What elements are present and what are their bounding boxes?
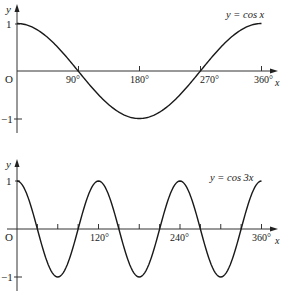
y-max-label: 1: [6, 175, 12, 187]
curve-label: y = cos 3x: [209, 172, 254, 183]
y-min-label: −1: [1, 113, 13, 125]
y-axis-arrow-icon: [15, 159, 20, 167]
x-ticks: [37, 224, 261, 229]
curve-label: y = cos x: [225, 9, 265, 20]
origin-label: O: [5, 231, 13, 243]
y-axis-arrow-icon: [15, 4, 20, 12]
x-axis-label: x: [274, 77, 280, 88]
x-tick-label-360: 360°: [252, 232, 271, 243]
y-axis-label: y: [5, 158, 11, 170]
x-tick-label-180: 180°: [130, 74, 149, 85]
x-tick-label-90: 90°: [66, 74, 80, 85]
chart-canvas: y 1 −1 O 90° 180° 270° 360° x y = cos x: [0, 0, 284, 298]
x-axis-label: x: [274, 235, 280, 246]
y-max-label: 1: [6, 18, 12, 30]
x-tick-label-120: 120°: [90, 232, 109, 243]
chart-cos-3x: y 1 −1 O 120° 240° 360° x y = cos 3x: [1, 158, 280, 291]
x-axis-arrow-icon: [270, 227, 278, 232]
chart-cos-x: y 1 −1 O 90° 180° 270° 360° x y = cos x: [1, 3, 280, 133]
figure: y 1 −1 O 90° 180° 270° 360° x y = cos x: [0, 0, 284, 298]
x-tick-label-360: 360°: [254, 74, 273, 85]
x-axis-arrow-icon: [270, 69, 278, 74]
x-tick-label-270: 270°: [200, 74, 219, 85]
y-min-label: −1: [1, 271, 13, 283]
x-tick-label-240: 240°: [170, 232, 189, 243]
y-axis-label: y: [5, 3, 11, 15]
origin-label: O: [5, 73, 13, 85]
